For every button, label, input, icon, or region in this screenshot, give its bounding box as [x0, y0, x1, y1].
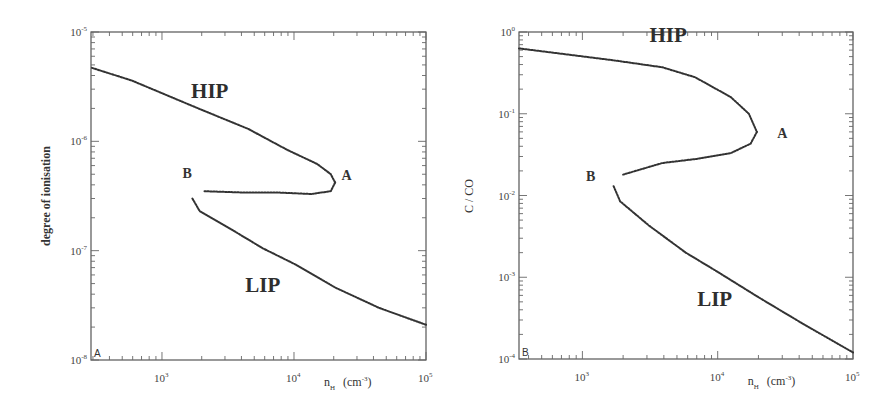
data-series-hip-branch: [519, 48, 757, 131]
data-series-lip-branch: [614, 186, 853, 352]
point-label-b: B: [182, 166, 191, 181]
chart-panel-a: 10310410510-510-610-710-8nH(cm-3)degree …: [0, 0, 445, 411]
point-label-b: B: [586, 169, 595, 184]
x-axis-label: nH(cm-3): [748, 374, 796, 391]
region-label-hip: HIP: [649, 23, 687, 47]
chart-a-svg: 10310410510-510-610-710-8nH(cm-3)degree …: [0, 0, 445, 411]
axis-ticks: [91, 32, 426, 360]
y-tick-label: 100: [501, 25, 516, 38]
point-label-a: A: [341, 168, 352, 183]
data-series-unstable-branch: [623, 132, 757, 175]
data-series-unstable-branch: [205, 183, 336, 195]
point-label-a: A: [777, 126, 788, 141]
region-label-lip: LIP: [245, 273, 280, 297]
y-axis-label: degree of ionisation: [39, 146, 53, 246]
plot-frame: [519, 32, 853, 359]
panel-id-label: A: [94, 348, 101, 359]
y-tick-label: 10-4: [498, 352, 515, 365]
y-tick-label: 10-3: [498, 270, 515, 283]
x-tick-label: 104: [710, 370, 725, 383]
y-tick-label: 10-1: [498, 107, 515, 120]
x-tick-label: 104: [286, 371, 301, 384]
x-tick-label: 105: [845, 370, 860, 383]
chart-panel-b: 10310410510010-110-210-310-4nH(cm-3)C / …: [445, 0, 891, 411]
chart-b-svg: 10310410510010-110-210-310-4nH(cm-3)C / …: [445, 0, 891, 411]
y-tick-label: 10-2: [498, 189, 515, 202]
y-axis-label: C / CO: [462, 179, 476, 213]
plot-frame: [91, 32, 426, 360]
x-tick-label: 103: [154, 371, 169, 384]
region-label-lip: LIP: [697, 287, 732, 311]
x-tick-label: 105: [418, 371, 433, 384]
panel-id-label: B: [522, 347, 529, 358]
y-tick-label: 10-7: [70, 244, 87, 257]
region-label-hip: HIP: [191, 79, 229, 103]
y-tick-label: 10-5: [70, 25, 87, 38]
y-tick-label: 10-8: [70, 353, 87, 366]
x-tick-label: 103: [574, 370, 589, 383]
y-tick-label: 10-6: [70, 134, 87, 147]
data-series-lip-branch: [192, 199, 426, 325]
axis-ticks: [519, 32, 853, 359]
x-axis-label: nH(cm-3): [324, 375, 372, 392]
